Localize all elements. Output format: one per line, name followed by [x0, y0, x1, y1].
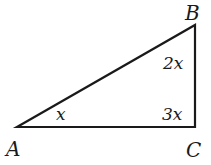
angle-label-b: 2x	[162, 53, 184, 73]
angle-label-a: x	[56, 104, 66, 124]
vertex-label-a: A	[4, 137, 20, 161]
vertex-label-c: C	[186, 138, 201, 162]
angle-label-c: 3x	[162, 104, 183, 124]
triangle-diagram: B A C 2x 3x x	[0, 0, 211, 165]
triangle-figure: B A C 2x 3x x	[0, 0, 211, 165]
vertex-label-b: B	[184, 1, 200, 25]
